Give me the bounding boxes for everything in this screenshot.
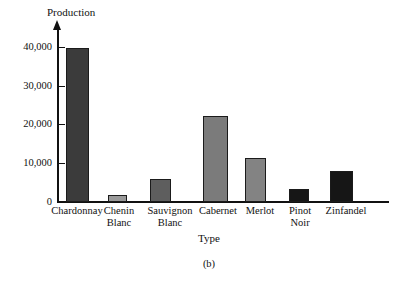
- y-axis-tick: [58, 47, 65, 48]
- bar: [245, 158, 266, 202]
- y-axis-title: Production: [47, 6, 95, 19]
- y-axis-line: [57, 28, 59, 203]
- x-axis-title: Type: [0, 232, 404, 245]
- bar: [289, 189, 309, 202]
- bar: [66, 48, 89, 202]
- bar: [108, 195, 127, 202]
- bar: [150, 179, 171, 202]
- y-axis-tick-label: 40,000: [8, 42, 52, 53]
- bar: [330, 171, 353, 202]
- x-axis-tick-label: Zinfandel: [318, 205, 374, 217]
- figure-caption: (b): [0, 258, 404, 270]
- y-axis-tick-label: 30,000: [8, 81, 52, 92]
- x-axis-tick-label: Pinot Noir: [276, 205, 324, 228]
- x-axis-title-text: Type: [198, 232, 220, 244]
- y-axis-tick-label: 20,000: [8, 119, 52, 130]
- y-axis-tick: [58, 124, 65, 125]
- y-axis-tick-label: 10,000: [8, 158, 52, 169]
- y-axis-tick: [58, 86, 65, 87]
- bar-chart: Production 010,00020,00030,00040,000 Cha…: [0, 0, 404, 281]
- figure-container: Production 010,00020,00030,00040,000 Cha…: [0, 0, 404, 281]
- figure-caption-text: (b): [203, 258, 215, 269]
- y-axis-tick: [58, 163, 65, 164]
- bar: [203, 116, 228, 202]
